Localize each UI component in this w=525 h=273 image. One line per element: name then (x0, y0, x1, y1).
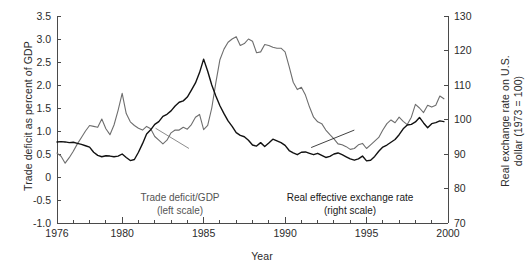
y-axis-right-title-line2: dollar (1973 = 100) (512, 76, 524, 166)
y-axis-left-tick-label: -0.5 (33, 194, 51, 206)
annotation-real-exchange-rate-line2: (right scale) (324, 205, 376, 216)
y-axis-left-title: Trade deficit as percent of GDP (22, 26, 34, 206)
y-axis-right-tick-label: 80 (454, 182, 466, 194)
y-axis-right-title-line1: Real exchange rate on U.S. (499, 55, 511, 187)
x-axis-tick-label: 1995 (355, 227, 379, 239)
y-axis-right-tick-label: 130 (454, 10, 472, 22)
y-axis-left-tick-label: 1.0 (36, 125, 51, 137)
x-axis-tick-label: 1985 (192, 227, 216, 239)
annotation-real-exchange-rate: Real effective exchange rate (right scal… (275, 192, 425, 217)
y-axis-right-tick-label: 100 (454, 113, 472, 125)
y-axis-right-tick-label: 90 (454, 148, 466, 160)
series-line-trade-deficit (57, 37, 444, 164)
y-axis-left-tick-label: 0.5 (36, 148, 51, 160)
series-line-real-exchange-rate (57, 59, 444, 161)
leader-line-trade-deficit (156, 128, 189, 148)
y-axis-right-tick-label: 110 (454, 79, 471, 91)
y-axis-left-tick-label: 3.0 (36, 33, 51, 45)
y-axis-left-tick-label: 3.5 (36, 10, 51, 22)
y-axis-left-tick-label: 2.0 (36, 79, 51, 91)
annotation-trade-deficit-line2: (left scale) (157, 205, 203, 216)
annotation-real-exchange-rate-line1: Real effective exchange rate (287, 192, 414, 203)
y-axis-left-tick-label: 0 (45, 171, 51, 183)
series-layer (57, 37, 444, 164)
x-axis-title: Year (0, 250, 524, 262)
x-axis-tick-label: 1976 (45, 227, 69, 239)
x-axis-tick-label: 2000 (436, 227, 460, 239)
y-axis-right-tick-label: 120 (454, 44, 472, 56)
x-axis-tick-label: 1980 (110, 227, 134, 239)
y-axis-left-tick-label: 1.5 (36, 102, 51, 114)
y-axis-left-tick-label: 2.5 (36, 56, 51, 68)
x-axis-tick-label: 1990 (273, 227, 297, 239)
annotation-trade-deficit: Trade deficit/GDP (left scale) (125, 192, 235, 217)
annotation-trade-deficit-line1: Trade deficit/GDP (140, 192, 219, 203)
leader-line-real-exchange-rate (311, 130, 354, 147)
y-axis-right-title: Real exchange rate on U.S.dollar (1973 =… (499, 21, 525, 221)
